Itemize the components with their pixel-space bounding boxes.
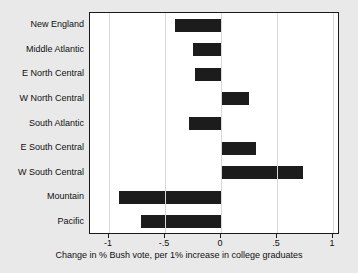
bar [119, 191, 221, 204]
x-tick-label: 1 [329, 238, 334, 248]
plot-area [89, 12, 339, 233]
bars-layer [90, 13, 338, 233]
category-label: E North Central [0, 68, 84, 78]
bar [141, 215, 221, 228]
gridline [165, 13, 166, 233]
x-tick-label: 0 [217, 238, 222, 248]
category-label: Mountain [0, 191, 84, 201]
gridline [277, 13, 278, 233]
category-label: E South Central [0, 142, 84, 152]
bar [189, 117, 221, 130]
category-label: W South Central [0, 167, 84, 177]
bar [195, 68, 221, 81]
x-axis-line [89, 233, 339, 234]
x-tick-label: .5 [272, 238, 280, 248]
category-label: South Atlantic [0, 118, 84, 128]
bar [193, 43, 221, 56]
gridline [333, 13, 334, 233]
x-tick-label: -.5 [159, 238, 170, 248]
category-label: Pacific [0, 216, 84, 226]
bar [175, 19, 221, 32]
category-label: New England [0, 19, 84, 29]
x-tick-label: -1 [104, 238, 112, 248]
category-label: Middle Atlantic [0, 44, 84, 54]
gridline [221, 13, 222, 233]
bar [221, 166, 303, 179]
category-label: W North Central [0, 93, 84, 103]
bar [221, 142, 256, 155]
gridline [109, 13, 110, 233]
bar [221, 92, 249, 105]
x-axis-title: Change in % Bush vote, per 1% increase i… [0, 250, 358, 260]
bar-chart: New EnglandMiddle AtlanticE North Centra… [0, 0, 358, 273]
